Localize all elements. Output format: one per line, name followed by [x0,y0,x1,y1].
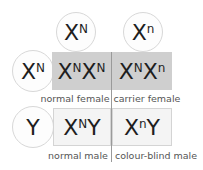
genotype-allele: n [158,62,166,74]
gamete-circle-side-2: Y [12,106,54,148]
gamete-base: Y [26,115,39,140]
punnett-cell-normal-female: XNXN [52,52,111,90]
label-carrier-female: carrier female [112,93,182,104]
gamete-circle-top-2: Xn [123,12,163,52]
gamete-base: X [21,59,36,84]
genotype-base: X [143,59,158,84]
label-normal-male: normal male [45,150,111,161]
genotype-base: X [82,59,97,84]
genotype-allele: N [73,62,82,74]
gamete-allele: n [147,23,155,35]
gamete-base: X [64,20,79,45]
column-divider [111,52,112,162]
genotype-base: Y [147,115,160,140]
gamete-base: X [132,20,147,45]
genotype-allele: N [78,118,87,130]
genotype-allele: N [97,62,106,74]
genotype-allele: n [139,118,147,130]
gamete-allele: N [36,62,45,74]
genotype-base: Y [87,115,100,140]
genotype-base: X [119,59,134,84]
gamete-allele: N [79,23,88,35]
label-normal-female: normal female [40,93,110,104]
genotype-base: X [63,115,78,140]
genotype-allele: N [134,62,143,74]
punnett-cell-normal-male: XNY [53,108,111,146]
label-colour-blind-male: colour-blind male [112,150,200,161]
punnett-cell-carrier-female: XNXn [112,52,172,90]
genotype-base: X [124,115,139,140]
punnett-cell-colour-blind-male: XnY [112,108,172,146]
gamete-circle-side-1: XN [12,50,54,92]
genotype-base: X [57,59,72,84]
gamete-circle-top-1: XN [56,12,96,52]
